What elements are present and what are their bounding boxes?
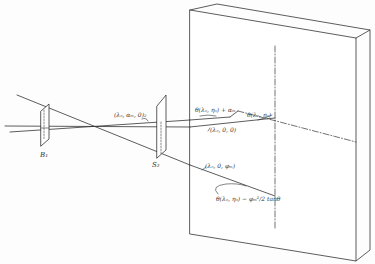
ray-lower-label: (λₒ, 0, φₘ) xyxy=(205,163,235,169)
ray-center-label: (λₒ, 0, 0) xyxy=(210,127,236,133)
diagram-drawing xyxy=(0,0,375,264)
diagram-canvas: B₁ S₂ (λₒ, αₘ, 0)₂ θ(λₒ, ηₒ) + αₘ θ(λₒ, … xyxy=(0,0,375,264)
point-upper-left-label: θ(λₒ, ηₒ) + αₘ xyxy=(195,107,236,113)
ray-upper-mid-label: (λₒ, αₘ, 0)₂ xyxy=(114,112,146,118)
slit-b1-label: B₁ xyxy=(40,152,48,159)
point-lower-label: θ(λₒ, ηₒ) − φₘ²/2 tanθ xyxy=(216,196,280,202)
slit-b1 xyxy=(41,104,49,146)
point-upper-right-label: θ(λₒ, ηₒ) xyxy=(247,112,271,118)
leader-arrow-upper-mid xyxy=(142,118,148,121)
slit-s2 xyxy=(157,95,166,158)
slit-s2-label: S₂ xyxy=(152,162,160,169)
